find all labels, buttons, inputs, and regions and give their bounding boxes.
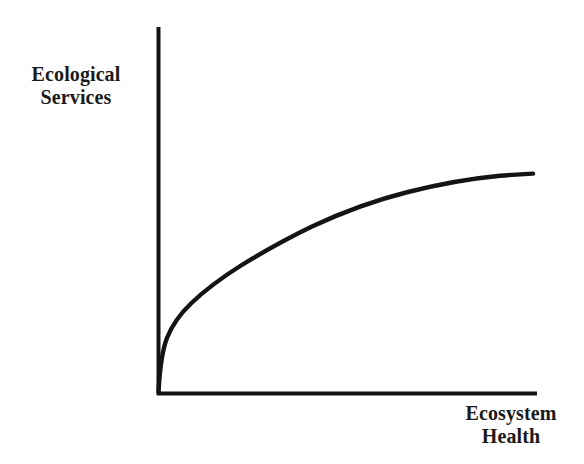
y-axis-label: Ecological Services — [8, 63, 144, 109]
figure-canvas: Ecological Services Ecosystem Health — [0, 0, 584, 464]
y-axis-label-line-2: Services — [8, 86, 144, 109]
y-axis-label-line-1: Ecological — [8, 63, 144, 86]
x-axis-label-line-2: Health — [440, 425, 582, 448]
x-axis-label-line-1: Ecosystem — [440, 402, 582, 425]
ecological-services-curve — [159, 174, 534, 392]
x-axis-label: Ecosystem Health — [440, 402, 582, 448]
